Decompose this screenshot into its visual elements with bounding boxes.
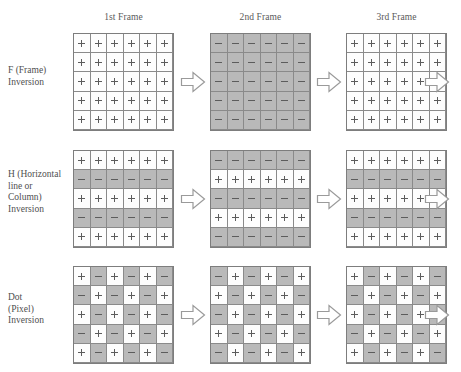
pixel-cell	[140, 189, 157, 208]
plus-icon	[434, 292, 441, 299]
minus-icon	[248, 233, 255, 240]
pixel-cell	[244, 189, 261, 208]
pixel-cell	[244, 92, 261, 111]
pixel-cell	[364, 344, 381, 363]
minus-icon	[232, 157, 239, 164]
minus-icon	[298, 195, 305, 202]
plus-icon	[215, 176, 222, 183]
pixel-cell	[157, 72, 174, 91]
pixel-cell	[91, 344, 108, 363]
pixel-cell	[261, 111, 278, 130]
minus-icon	[161, 176, 168, 183]
row-label-line: Inversion	[8, 315, 70, 327]
plus-icon	[417, 59, 424, 66]
pixel-cell	[74, 286, 91, 305]
pixel-cell	[107, 344, 124, 363]
pixel-cell	[157, 209, 174, 228]
plus-icon	[351, 157, 358, 164]
pixel-cell	[140, 325, 157, 344]
plus-icon	[78, 349, 85, 356]
plus-icon	[298, 214, 305, 221]
pixel-cell	[364, 286, 381, 305]
minus-icon	[401, 311, 408, 318]
pixel-cell	[380, 209, 397, 228]
plus-icon	[368, 97, 375, 104]
pixel-cell	[157, 111, 174, 130]
minus-icon	[144, 214, 151, 221]
minus-icon	[368, 273, 375, 280]
pixel-cell	[244, 344, 261, 363]
pixel-cell	[347, 325, 364, 344]
plus-icon	[161, 195, 168, 202]
pixel-cell	[294, 151, 311, 170]
pixel-cell	[140, 286, 157, 305]
pixel-cell	[294, 111, 311, 130]
pixel-cell	[124, 170, 141, 189]
plus-icon	[281, 214, 288, 221]
minus-icon	[248, 116, 255, 123]
pixel-cell	[261, 209, 278, 228]
minus-icon	[248, 78, 255, 85]
pixel-cell	[107, 53, 124, 72]
plus-icon	[111, 233, 118, 240]
pixel-cell	[124, 111, 141, 130]
plus-icon	[144, 157, 151, 164]
pixel-cell	[140, 34, 157, 53]
transition-arrow-icon	[316, 187, 342, 211]
pixel-cell	[413, 92, 430, 111]
plus-icon	[368, 157, 375, 164]
transition-arrow-icon	[424, 303, 450, 327]
minus-icon	[265, 97, 272, 104]
plus-icon	[434, 233, 441, 240]
minus-icon	[265, 157, 272, 164]
pixel-cell	[140, 92, 157, 111]
inversion-diagram: 1st Frame 2nd Frame 3rd Frame F (Frame) …	[0, 0, 461, 372]
pixel-cell	[364, 170, 381, 189]
plus-icon	[144, 273, 151, 280]
minus-icon	[401, 214, 408, 221]
pixel-cell	[397, 228, 414, 247]
minus-icon	[232, 292, 239, 299]
pixel-cell	[397, 111, 414, 130]
plus-icon	[95, 233, 102, 240]
pixel-cell	[74, 92, 91, 111]
plus-icon	[384, 97, 391, 104]
plus-icon	[401, 292, 408, 299]
pixel-cell	[261, 170, 278, 189]
plus-icon	[417, 157, 424, 164]
minus-icon	[434, 214, 441, 221]
minus-icon	[111, 292, 118, 299]
pixel-cell	[140, 228, 157, 247]
pixel-cell	[157, 53, 174, 72]
pixel-cell	[157, 151, 174, 170]
minus-icon	[232, 97, 239, 104]
pixel-cell	[228, 228, 245, 247]
plus-icon	[128, 330, 135, 337]
minus-icon	[281, 157, 288, 164]
pixel-cell	[244, 170, 261, 189]
minus-icon	[78, 176, 85, 183]
minus-icon	[351, 292, 358, 299]
pixel-cell	[157, 286, 174, 305]
plus-icon	[351, 59, 358, 66]
plus-icon	[95, 40, 102, 47]
plus-icon	[161, 292, 168, 299]
plus-icon	[144, 311, 151, 318]
plus-icon	[128, 97, 135, 104]
pixel-cell	[124, 228, 141, 247]
pixel-cell	[91, 34, 108, 53]
pixel-cell	[413, 325, 430, 344]
pixel-cell	[140, 53, 157, 72]
pixel-cell	[244, 111, 261, 130]
minus-icon	[298, 157, 305, 164]
pixel-cell	[277, 344, 294, 363]
plus-icon	[417, 233, 424, 240]
pixel-cell	[277, 189, 294, 208]
plus-icon	[144, 349, 151, 356]
minus-icon	[265, 78, 272, 85]
minus-icon	[384, 214, 391, 221]
plus-icon	[128, 116, 135, 123]
minus-icon	[434, 273, 441, 280]
pixel-cell	[347, 305, 364, 324]
minus-icon	[161, 349, 168, 356]
